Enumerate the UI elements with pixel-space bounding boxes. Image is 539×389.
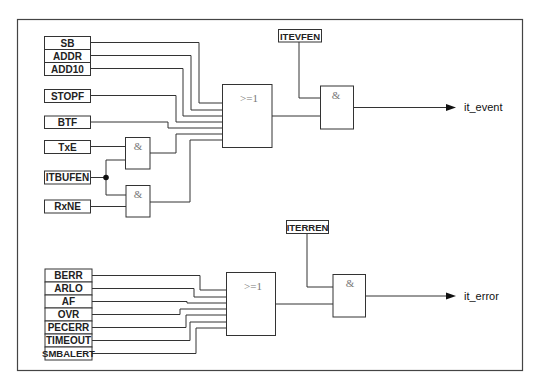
label-ovr: OVR: [58, 309, 80, 320]
and-symbol: &: [346, 277, 355, 289]
and-symbol: &: [134, 140, 143, 152]
output-it-error: it_error: [464, 290, 499, 302]
label-sb: SB: [61, 38, 75, 49]
label-itevfen: ITEVFEN: [280, 31, 320, 42]
label-pecerr: PECERR: [48, 322, 90, 333]
label-timeout: TIMEOUT: [46, 335, 91, 346]
junction-dot: [103, 175, 109, 181]
label-btf: BTF: [58, 117, 77, 128]
output-it-event: it_event: [464, 101, 503, 113]
label-af: AF: [62, 296, 75, 307]
label-arlo: ARLO: [54, 283, 83, 294]
label-add10: ADD10: [51, 64, 84, 75]
or-symbol: >=1: [244, 280, 262, 292]
and-symbol: &: [332, 89, 341, 101]
label-iterren: ITERREN: [287, 222, 329, 233]
label-smbalert: SMBALERT: [42, 348, 95, 359]
label-addr: ADDR: [53, 51, 83, 62]
or-symbol: >=1: [240, 92, 258, 104]
label-berr: BERR: [54, 270, 83, 281]
label-stopf: STOPF: [51, 91, 84, 102]
label-rxne: RxNE: [54, 201, 81, 212]
and-symbol: &: [134, 188, 143, 200]
arrow-icon: [446, 293, 456, 300]
label-itbufen: ITBUFEN: [46, 172, 89, 183]
logic-diagram: SB ADDR ADD10 STOPF BTF TxE ITBUFEN RxNE…: [0, 0, 539, 389]
label-txe: TxE: [58, 142, 77, 153]
arrow-icon: [446, 104, 456, 111]
